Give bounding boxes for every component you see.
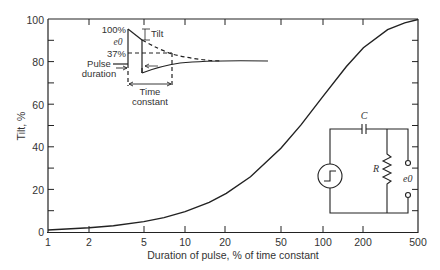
svg-text:Tilt: Tilt: [151, 28, 164, 39]
svg-text:20: 20: [32, 184, 44, 196]
svg-text:500: 500: [409, 236, 427, 248]
svg-text:100: 100: [314, 236, 332, 248]
svg-text:200: 200: [354, 236, 372, 248]
tilt-chart: 0 20 40 60 80 100 1 2 5 10 20 50 100 200…: [0, 0, 440, 270]
svg-text:0: 0: [38, 226, 44, 238]
svg-text:80: 80: [32, 56, 44, 68]
x-axis-label: Duration of pulse, % of time constant: [147, 249, 319, 261]
svg-text:e0: e0: [114, 37, 123, 47]
svg-text:R: R: [372, 163, 379, 174]
circuit-inset: [318, 124, 411, 213]
y-tick-labels: 0 20 40 60 80 100: [26, 14, 44, 239]
x-axis-ticks: [89, 19, 363, 232]
svg-text:duration: duration: [82, 68, 116, 79]
y-axis-label: Tilt, %: [15, 112, 27, 141]
svg-text:20: 20: [219, 236, 231, 248]
svg-text:2: 2: [86, 236, 92, 248]
svg-text:C: C: [361, 110, 368, 121]
svg-text:50: 50: [275, 236, 287, 248]
svg-text:40: 40: [32, 141, 44, 153]
svg-text:5: 5: [141, 236, 147, 248]
waveform-inset: [113, 29, 268, 86]
svg-text:60: 60: [32, 99, 44, 111]
svg-text:100%: 100%: [102, 24, 127, 35]
svg-text:constant: constant: [132, 96, 168, 107]
waveform-inset-labels: 100% e0 37% Tilt Pulse duration Time con…: [82, 24, 168, 107]
svg-text:e0: e0: [403, 173, 412, 184]
svg-text:10: 10: [179, 236, 191, 248]
svg-text:100: 100: [26, 14, 44, 26]
x-tick-labels: 1 2 5 10 20 50 100 200 500: [45, 236, 427, 248]
svg-text:1: 1: [45, 236, 51, 248]
